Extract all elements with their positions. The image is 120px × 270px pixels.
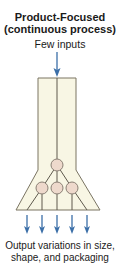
process-node-left <box>36 182 48 194</box>
output-label-line1: Output variations in size, <box>0 240 120 252</box>
input-arrow-icon <box>54 52 61 77</box>
output-arrow-icon <box>69 215 75 234</box>
output-arrow-icon <box>24 215 30 234</box>
process-funnel-diagram <box>0 0 120 270</box>
output-arrows <box>24 215 90 234</box>
output-arrow-icon <box>84 215 90 234</box>
process-node-middle <box>51 182 63 194</box>
output-arrow-icon <box>54 215 60 234</box>
output-arrow-icon <box>39 215 45 234</box>
output-label-line2: shape, and packaging <box>0 252 120 264</box>
process-node-right <box>66 182 78 194</box>
process-node-top <box>51 159 63 171</box>
